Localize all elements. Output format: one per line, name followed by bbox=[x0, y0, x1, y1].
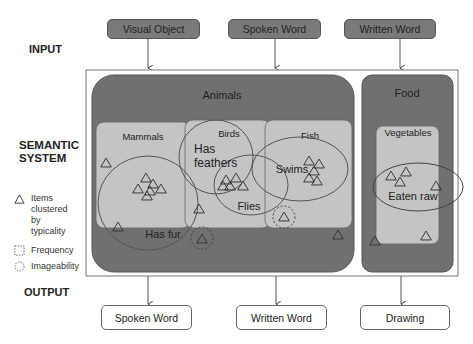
has-feathers-label-1: Has bbox=[194, 142, 215, 156]
input-written-word: Written Word bbox=[344, 19, 436, 39]
output-written-word: Written Word bbox=[236, 305, 327, 330]
animals-label: Animals bbox=[202, 89, 242, 101]
output-spoken-word: Spoken Word bbox=[101, 305, 192, 330]
has-feathers-label-2: feathers bbox=[194, 156, 237, 170]
flies-label: Flies bbox=[237, 200, 261, 212]
has-fur-label: Has fur bbox=[145, 228, 181, 240]
vegetables-region bbox=[376, 126, 439, 244]
fish-label: Fish bbox=[301, 130, 319, 141]
input-visual-object: Visual Object bbox=[107, 19, 200, 39]
vegetables-label: Vegetables bbox=[384, 127, 431, 138]
mammals-label: Mammals bbox=[122, 131, 163, 142]
input-spoken-word: Spoken Word bbox=[228, 19, 321, 39]
birds-label: Birds bbox=[218, 128, 240, 139]
food-label: Food bbox=[394, 87, 419, 99]
output-drawing: Drawing bbox=[360, 305, 450, 330]
semantic-diagram: Animals Food Mammals Birds Fish Vegetabl… bbox=[0, 0, 473, 344]
eaten-raw-label: Eaten raw bbox=[388, 190, 438, 202]
